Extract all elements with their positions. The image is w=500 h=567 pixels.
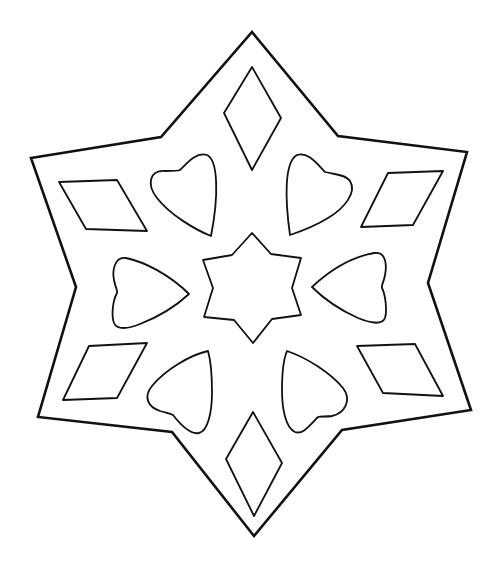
star-drawing (0, 0, 500, 567)
coloring-page (0, 0, 500, 567)
